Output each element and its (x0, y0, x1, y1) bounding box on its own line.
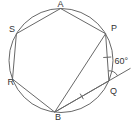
geometry-figure: A P Q B R S 60° (0, 0, 133, 121)
tick-mark-bq (80, 94, 83, 100)
chord-bp (55, 34, 106, 112)
circle-outline (9, 9, 113, 113)
hexagon-outline (13, 9, 109, 113)
tick-mark-pq (103, 57, 111, 58)
circle-hexagon-diagram: A P Q B R S 60° (0, 0, 133, 121)
vertex-label-b: B (55, 112, 61, 122)
vertex-label-s: S (9, 24, 15, 34)
vertex-label-a: A (57, 0, 63, 9)
vertex-label-q: Q (110, 86, 117, 96)
angle-measure-label: 60° (115, 56, 129, 66)
angle-arc (108, 71, 117, 76)
vertex-label-p: P (111, 23, 117, 33)
vertex-label-r: R (8, 77, 15, 87)
ray-bq-extended (55, 68, 131, 112)
